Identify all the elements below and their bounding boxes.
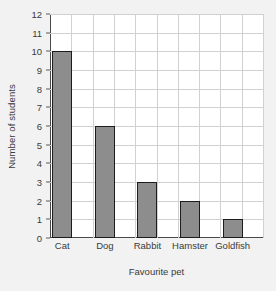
- bar-rabbit: [137, 182, 157, 238]
- x-axis-tick-label-goldfish: Goldfish: [215, 240, 250, 251]
- bar-dog: [95, 126, 115, 238]
- bar-goldfish: [223, 219, 243, 238]
- x-axis-tick-label-cat: Cat: [55, 240, 70, 251]
- y-axis-tick-label: 12: [31, 9, 42, 20]
- x-axis-title: Favourite pet: [50, 266, 263, 277]
- y-axis-tick-label: 3: [37, 177, 42, 188]
- gridline-vertical: [178, 14, 179, 238]
- y-axis-title: Number of students: [0, 0, 22, 252]
- gridline-vertical: [242, 14, 243, 238]
- bar-chart: Number of students 0123456789101112 CatD…: [0, 0, 276, 291]
- x-axis-tick-label-hamster: Hamster: [172, 240, 208, 251]
- y-axis-tick-label: 9: [37, 65, 42, 76]
- y-axis-tick-label: 0: [37, 233, 42, 244]
- y-axis-tick-label: 5: [37, 139, 42, 150]
- gridline-vertical: [220, 14, 221, 238]
- y-axis-tick-label-group: 0123456789101112: [22, 14, 46, 238]
- y-axis-tick-label: 6: [37, 121, 42, 132]
- x-axis-tick-label-rabbit: Rabbit: [134, 240, 161, 251]
- y-axis-title-label: Number of students: [6, 84, 17, 169]
- x-axis-tick-label-dog: Dog: [96, 240, 113, 251]
- y-axis-tick-label: 1: [37, 214, 42, 225]
- y-axis-tick-label: 8: [37, 83, 42, 94]
- gridline-vertical: [157, 14, 158, 238]
- gridline-vertical: [263, 14, 264, 238]
- y-axis-tick-label: 4: [37, 158, 42, 169]
- bar-cat: [52, 51, 72, 238]
- y-axis-tick-label: 2: [37, 195, 42, 206]
- x-axis-tick-label-group: CatDogRabbitHamsterGoldfish: [50, 240, 263, 256]
- y-axis-tick-label: 7: [37, 102, 42, 113]
- y-axis-tick-label: 11: [32, 27, 42, 38]
- bar-hamster: [180, 201, 200, 238]
- plot-area: [50, 14, 263, 238]
- y-axis-tick-label: 10: [31, 46, 42, 57]
- gridline-vertical: [93, 14, 94, 238]
- gridline-vertical: [135, 14, 136, 238]
